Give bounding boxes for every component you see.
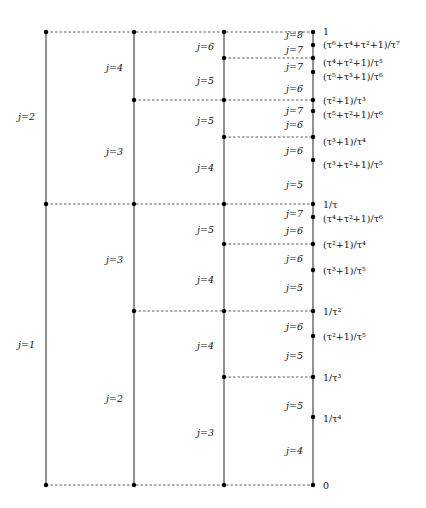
- level-label-col4: j=5: [286, 401, 303, 411]
- level-label-col3: j=5: [197, 116, 214, 126]
- node-dot: [311, 334, 315, 338]
- value-label: 1/τ⁴: [323, 414, 341, 424]
- value-label: 1/τ: [323, 200, 338, 210]
- level-label-col4: j=7: [286, 62, 303, 72]
- value-label: (τ²+1)/τ³: [323, 96, 366, 106]
- level-label-col4: j=4: [286, 446, 303, 456]
- value-label: (τ³+1)/τ⁴: [323, 137, 366, 147]
- value-label: (τ⁴+τ²+1)/τ⁶: [323, 214, 383, 224]
- level-label-col4: j=8: [286, 30, 303, 40]
- level-label-col4: j=6: [286, 226, 303, 236]
- value-label: 1: [323, 27, 329, 37]
- node-dot: [311, 309, 315, 313]
- level-label-col4: j=6: [286, 120, 303, 130]
- level-label-col3: j=6: [197, 42, 214, 52]
- level-label-col2: j=4: [106, 63, 123, 73]
- node-dot: [311, 70, 315, 74]
- level-label-col4: j=7: [286, 106, 303, 116]
- level-label-col3: j=5: [197, 76, 214, 86]
- level-label-col4: j=7: [286, 45, 303, 55]
- node-dot: [222, 30, 226, 34]
- level-label-col3: j=3: [197, 428, 214, 438]
- node-dot: [311, 30, 315, 34]
- level-label-col3: j=4: [197, 163, 214, 173]
- node-dot: [222, 135, 226, 139]
- level-label-col4: j=7: [286, 209, 303, 219]
- node-dot: [311, 135, 315, 139]
- value-label: 1/τ²: [323, 307, 341, 317]
- node-dot: [311, 202, 315, 206]
- node-dot: [222, 98, 226, 102]
- level-label-col1: j=1: [18, 340, 35, 350]
- level-label-col4: j=6: [286, 322, 303, 332]
- node-dot: [311, 158, 315, 162]
- value-label: (τ³+1)/τ⁵: [323, 266, 366, 276]
- level-label-col4: j=6: [286, 146, 303, 156]
- node-dot: [44, 483, 48, 487]
- value-label: (τ²+1)/τ⁵: [323, 332, 366, 342]
- node-dot: [132, 483, 136, 487]
- value-label: 1/τ³: [323, 373, 341, 383]
- node-dot: [311, 43, 315, 47]
- node-dot: [222, 202, 226, 206]
- node-dot: [222, 375, 226, 379]
- level-label-col2: j=2: [106, 394, 123, 404]
- level-label-col2: j=3: [106, 255, 123, 265]
- node-dot: [132, 30, 136, 34]
- node-dot: [311, 215, 315, 219]
- level-label-col4: j=6: [286, 84, 303, 94]
- value-label: 0: [323, 481, 329, 491]
- level-label-col4: j=5: [286, 283, 303, 293]
- level-label-col3: j=5: [197, 225, 214, 235]
- value-label: (τ⁶+τ⁴+τ²+1)/τ⁷: [323, 40, 400, 50]
- node-dot: [311, 98, 315, 102]
- node-dot: [132, 309, 136, 313]
- node-dot: [132, 98, 136, 102]
- node-dot: [44, 30, 48, 34]
- value-label: (τ³+τ²+1)/τ⁵: [323, 160, 383, 170]
- node-dot: [311, 375, 315, 379]
- node-dot: [311, 415, 315, 419]
- node-dot: [311, 109, 315, 113]
- level-label-col4: j=5: [286, 180, 303, 190]
- value-label: (τ⁵+τ³+1)/τ⁶: [323, 72, 383, 82]
- node-dot: [311, 56, 315, 60]
- level-label-col3: j=4: [197, 341, 214, 351]
- node-dot: [222, 309, 226, 313]
- value-label: (τ⁴+τ²+1)/τ⁵: [323, 58, 383, 68]
- node-dot: [222, 242, 226, 246]
- node-dot: [44, 202, 48, 206]
- node-dot: [311, 242, 315, 246]
- level-label-col4: j=5: [286, 351, 303, 361]
- node-dot: [222, 483, 226, 487]
- level-label-col1: j=2: [18, 112, 35, 122]
- level-label-col2: j=3: [106, 147, 123, 157]
- value-label: (τ²+1)/τ⁴: [323, 240, 366, 250]
- node-dot: [132, 202, 136, 206]
- node-dot: [311, 268, 315, 272]
- node-dot: [311, 483, 315, 487]
- node-dot: [222, 56, 226, 60]
- level-label-col3: j=4: [197, 275, 214, 285]
- value-label: (τ⁵+τ²+1)/τ⁶: [323, 110, 383, 120]
- level-label-col4: j=6: [286, 254, 303, 264]
